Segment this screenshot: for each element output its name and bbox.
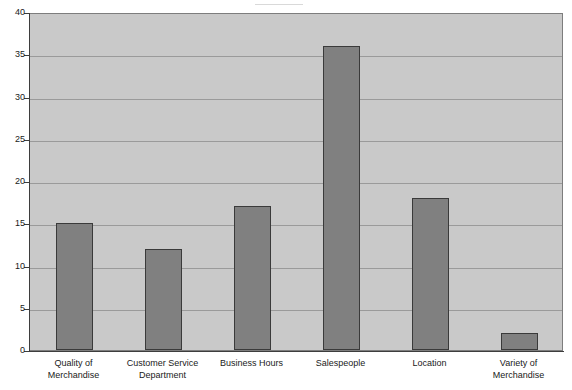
gridline bbox=[30, 141, 562, 142]
y-axis-tick-label: 20 bbox=[0, 177, 25, 186]
y-axis-tick-label: 5 bbox=[0, 304, 25, 313]
x-axis-line bbox=[29, 351, 564, 352]
y-axis-tick-label-text: 15 bbox=[3, 219, 25, 228]
x-axis-category-label: Location bbox=[385, 357, 474, 369]
y-axis-tick-label-text: 40 bbox=[3, 8, 25, 17]
bar bbox=[501, 333, 538, 350]
y-axis-tick-label-text: 10 bbox=[3, 262, 25, 271]
y-axis-tick-label-text: 5 bbox=[3, 304, 25, 313]
gridline bbox=[30, 99, 562, 100]
y-axis-tick-label: 40 bbox=[0, 8, 25, 17]
y-axis-tick-label: 0 bbox=[0, 346, 25, 355]
y-axis-tick-label-text: 25 bbox=[3, 135, 25, 144]
y-axis-tick-label: 15 bbox=[0, 219, 25, 228]
x-axis-category-label: Customer Service Department bbox=[118, 357, 207, 381]
gridline bbox=[30, 183, 562, 184]
y-axis-tick-label: 35 bbox=[0, 50, 25, 59]
bar bbox=[56, 223, 93, 350]
x-axis-category-label: Business Hours bbox=[207, 357, 296, 369]
bar bbox=[323, 46, 360, 350]
x-axis-category-label: Salespeople bbox=[296, 357, 385, 369]
x-axis-category-label: Quality of Merchandise bbox=[29, 357, 118, 381]
y-axis-tick-label-text: 30 bbox=[3, 93, 25, 102]
bar bbox=[412, 198, 449, 350]
y-axis-tick-label: 10 bbox=[0, 262, 25, 271]
bar bbox=[145, 249, 182, 350]
top-artifact-line bbox=[255, 4, 303, 5]
gridline bbox=[30, 225, 562, 226]
gridline bbox=[30, 56, 562, 57]
y-axis-tick-label-text: 20 bbox=[3, 177, 25, 186]
y-axis-tick-label: 30 bbox=[0, 93, 25, 102]
y-axis-tick-label-text: 35 bbox=[3, 50, 25, 59]
y-axis-tick-label: 25 bbox=[0, 135, 25, 144]
bar-chart: 0510152025303540 Quality of MerchandiseC… bbox=[0, 0, 572, 390]
plot-area bbox=[29, 13, 563, 351]
gridline bbox=[30, 268, 562, 269]
gridline bbox=[30, 310, 562, 311]
bar bbox=[234, 206, 271, 350]
y-axis-tick-label-text: 0 bbox=[3, 346, 25, 355]
x-axis-category-label: Variety of Merchandise bbox=[474, 357, 563, 381]
